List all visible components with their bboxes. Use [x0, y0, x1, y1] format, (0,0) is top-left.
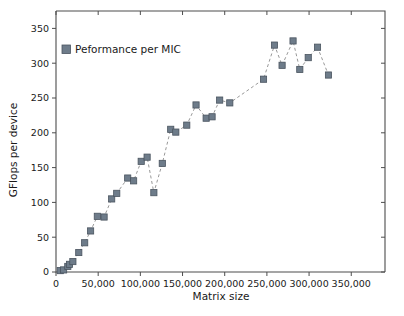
- data-point: [101, 214, 107, 220]
- y-tick-label-1: 50: [37, 232, 49, 243]
- y-tick-label-2: 100: [31, 197, 49, 208]
- y-tick-label-3: 150: [31, 162, 49, 173]
- x-tick-label-0: 0: [53, 278, 59, 289]
- data-point: [297, 66, 303, 72]
- chart-figure: 050,000100,000150,000200,000250,000300,0…: [0, 0, 404, 316]
- data-point: [76, 249, 82, 255]
- y-tick-label-6: 300: [31, 58, 49, 69]
- data-point: [87, 228, 93, 234]
- data-point: [203, 115, 209, 121]
- data-point: [138, 158, 144, 164]
- x-tick-label-7: 350,000: [332, 278, 371, 289]
- data-point: [260, 76, 266, 82]
- x-tick-label-4: 200,000: [205, 278, 244, 289]
- data-point: [271, 42, 277, 48]
- chart-legend: Peformance per MIC: [62, 43, 181, 55]
- data-point: [209, 114, 215, 120]
- data-point: [184, 122, 190, 128]
- y-axis-title: GFlops per device: [7, 103, 19, 197]
- data-point: [217, 97, 223, 103]
- x-tick-label-5: 250,000: [247, 278, 286, 289]
- data-point: [114, 190, 120, 196]
- performance-scatter-chart: 050,000100,000150,000200,000250,000300,0…: [0, 0, 404, 316]
- y-tick-label-0: 0: [43, 266, 49, 277]
- x-tick-label-2: 100,000: [121, 278, 160, 289]
- x-tick-label-3: 150,000: [163, 278, 202, 289]
- x-tick-label-6: 300,000: [289, 278, 328, 289]
- x-tick-label-1: 50,000: [82, 278, 115, 289]
- series-line-0: [60, 41, 328, 271]
- y-tick-label-5: 250: [31, 92, 49, 103]
- x-axis-title: Matrix size: [193, 290, 250, 302]
- data-point: [82, 240, 88, 246]
- data-point: [151, 190, 157, 196]
- data-point: [131, 178, 137, 184]
- data-point: [193, 102, 199, 108]
- legend-swatch: [62, 45, 71, 54]
- data-point: [305, 55, 311, 61]
- data-point: [290, 38, 296, 44]
- data-point: [70, 258, 76, 264]
- data-point: [144, 154, 150, 160]
- data-point: [227, 100, 233, 106]
- legend-label: Peformance per MIC: [75, 43, 181, 55]
- data-series: [57, 38, 331, 274]
- y-tick-label-7: 350: [31, 23, 49, 34]
- data-point: [173, 129, 179, 135]
- data-point: [314, 44, 320, 50]
- data-point: [159, 160, 165, 166]
- data-point: [279, 62, 285, 68]
- data-point: [325, 72, 331, 78]
- y-tick-label-4: 200: [31, 127, 49, 138]
- data-point: [125, 175, 131, 181]
- data-point: [94, 213, 100, 219]
